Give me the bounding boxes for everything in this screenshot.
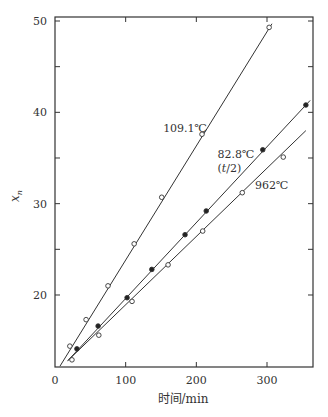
series-label: (t/2): [218, 162, 242, 175]
data-point: [132, 242, 137, 247]
data-point: [281, 155, 286, 160]
x-tick-label: 200: [186, 374, 207, 387]
data-point: [75, 347, 80, 352]
data-point: [97, 333, 102, 338]
chart: 010020030020304050 109.1℃82.8℃(t/2)962℃ …: [0, 0, 328, 417]
fit-line: [68, 131, 306, 361]
data-point: [260, 147, 265, 152]
data-point: [204, 209, 209, 214]
y-tick-label: 30: [33, 198, 47, 211]
fit-line: [60, 24, 272, 366]
series-labels: 109.1℃82.8℃(t/2)962℃: [163, 122, 288, 192]
y-tick-label: 40: [33, 106, 47, 119]
series-label: 82.8℃: [218, 148, 255, 161]
data-point: [159, 195, 164, 200]
data-point: [130, 299, 135, 304]
data-point: [240, 190, 245, 195]
axis-ticks: 010020030020304050: [33, 15, 313, 387]
data-points: [68, 25, 309, 362]
data-point: [200, 229, 205, 234]
data-point: [166, 263, 171, 268]
x-tick-label: 100: [115, 374, 136, 387]
data-point: [68, 344, 73, 349]
x-tick-label: 300: [257, 374, 278, 387]
fit-lines: [60, 24, 310, 366]
data-point: [96, 324, 101, 329]
data-point: [84, 317, 89, 322]
data-point: [150, 267, 155, 272]
data-point: [70, 358, 75, 363]
x-tick-label: 0: [52, 374, 59, 387]
data-point: [304, 103, 309, 108]
y-axis-label: xn: [8, 190, 24, 202]
series-label: 109.1℃: [163, 122, 207, 135]
series-label: 962℃: [255, 179, 288, 192]
y-tick-label: 20: [33, 289, 47, 302]
fit-line: [68, 100, 310, 360]
data-point: [183, 232, 188, 237]
data-point: [267, 25, 272, 30]
y-tick-label: 50: [33, 15, 47, 28]
data-point: [106, 284, 111, 289]
data-point: [125, 295, 130, 300]
x-axis-label: 时间/min: [158, 392, 209, 406]
